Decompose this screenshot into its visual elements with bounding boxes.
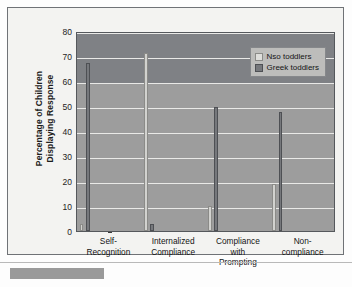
y-axis-title-line-1: Percentage of Children bbox=[34, 39, 45, 199]
footer-divider bbox=[0, 262, 352, 263]
plot-area: Nso toddlers Greek toddlers bbox=[76, 32, 335, 232]
y-tick-label: 80 bbox=[46, 27, 72, 37]
x-tick-label-line: Internalized bbox=[141, 236, 206, 247]
x-tick-label-line: Self- bbox=[76, 236, 141, 247]
bar-greek bbox=[86, 63, 90, 231]
chart-page: Percentage of Children Displaying Respon… bbox=[0, 0, 352, 287]
x-axis-labels: Self-RecognitionInternalizedComplianceCo… bbox=[76, 236, 335, 270]
y-tick-label: 70 bbox=[46, 52, 72, 62]
chart-card: Percentage of Children Displaying Respon… bbox=[7, 7, 344, 255]
y-axis-ticks: 01020304050607080 bbox=[44, 32, 72, 232]
x-tick-label: InternalizedCompliance bbox=[141, 236, 206, 257]
legend-swatch-nso-icon bbox=[255, 53, 263, 61]
y-tick-label: 30 bbox=[46, 152, 72, 162]
bar-nso bbox=[272, 184, 276, 231]
bar-nso bbox=[144, 53, 148, 231]
legend-item-greek: Greek toddlers bbox=[255, 62, 319, 73]
x-tick-label-line: Non- bbox=[270, 236, 335, 247]
x-tick-label-line: Compliance bbox=[141, 247, 206, 258]
legend-label-nso: Nso toddlers bbox=[267, 51, 312, 62]
y-tick-label: 40 bbox=[46, 127, 72, 137]
y-tick-label: 60 bbox=[46, 77, 72, 87]
x-tick-label-line: Recognition bbox=[76, 247, 141, 258]
bar-nso bbox=[80, 224, 84, 231]
y-tick-label: 20 bbox=[46, 177, 72, 187]
bar-greek bbox=[214, 107, 218, 231]
legend-label-greek: Greek toddlers bbox=[267, 62, 319, 73]
x-tick-label-line: Compliance bbox=[206, 236, 271, 247]
x-tick-label-line: with bbox=[206, 247, 271, 258]
bar-group bbox=[141, 33, 205, 231]
caption-placeholder-bar bbox=[10, 268, 104, 279]
bar-nso bbox=[208, 206, 212, 231]
y-tick-mark bbox=[108, 232, 112, 233]
bar-greek bbox=[150, 224, 154, 231]
bar-group bbox=[77, 33, 141, 231]
legend: Nso toddlers Greek toddlers bbox=[250, 47, 326, 77]
bar-greek bbox=[279, 112, 283, 231]
legend-swatch-greek-icon bbox=[255, 64, 263, 72]
y-tick-label: 10 bbox=[46, 202, 72, 212]
x-tick-label: Non-compliance bbox=[270, 236, 335, 257]
legend-item-nso: Nso toddlers bbox=[255, 51, 319, 62]
y-tick-label: 50 bbox=[46, 102, 72, 112]
y-tick-label: 0 bbox=[46, 227, 72, 237]
x-tick-label: Self-Recognition bbox=[76, 236, 141, 257]
x-tick-label-line: compliance bbox=[270, 247, 335, 258]
